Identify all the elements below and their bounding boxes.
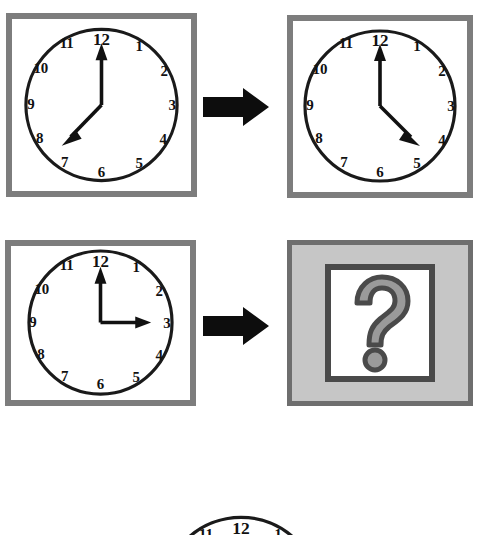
clock1-numeral-10: 10 [33, 60, 48, 76]
arrow-right-icon [203, 86, 269, 128]
clock2-numeral-11: 11 [339, 35, 353, 51]
clock3-numeral-9: 9 [29, 314, 36, 330]
clock2-numeral-4: 4 [438, 132, 446, 148]
clock2-numeral-1: 1 [413, 38, 421, 54]
clock1-numeral-5: 5 [136, 155, 143, 171]
clock2-numeral-5: 5 [413, 155, 421, 171]
clock1-numeral-9: 9 [27, 96, 34, 112]
clock1-numeral-1: 1 [136, 38, 143, 54]
clock3-numeral-11: 11 [60, 257, 74, 273]
clock1-numeral-6: 6 [98, 164, 106, 180]
clock2-numeral-7: 7 [340, 154, 348, 170]
clock-panel-3: 12 1 2 3 4 5 6 7 8 9 10 11 [5, 240, 196, 406]
clock3-numeral-2: 2 [155, 283, 162, 299]
clock1-numeral-4: 4 [159, 131, 167, 147]
clock3-numeral-5: 5 [133, 369, 140, 385]
clock1-numeral-2: 2 [160, 63, 167, 79]
clock1-numeral-7: 7 [61, 154, 69, 170]
clock3-numeral-7: 7 [61, 368, 69, 384]
clock-panel-1: 12 1 2 3 4 5 6 7 8 9 10 11 [6, 13, 197, 197]
arrow-right-icon [203, 305, 269, 347]
clock2-numeral-8: 8 [315, 130, 323, 146]
clock2-numeral-9: 9 [306, 97, 314, 113]
clock3-numeral-8: 8 [37, 346, 44, 362]
clock-face-2: 12 1 2 3 4 5 6 7 8 9 10 11 [293, 21, 467, 192]
clock1-numeral-8: 8 [36, 130, 43, 146]
question-mark-icon [345, 273, 415, 373]
clock3-numeral-3: 3 [163, 315, 170, 331]
answer-inner-box [325, 264, 435, 382]
clock3-numeral-10: 10 [34, 281, 49, 297]
clock3-numeral-4: 4 [155, 347, 163, 363]
clock-face-1: 12 1 2 3 4 5 6 7 8 9 10 11 [12, 19, 191, 191]
clock4-numeral-12: 12 [232, 518, 250, 535]
clock1-numeral-11: 11 [60, 35, 74, 51]
clock-panel-2: 12 1 2 3 4 5 6 7 8 9 10 11 [287, 15, 473, 198]
clock1-numeral-3: 3 [168, 97, 175, 113]
figure-canvas: 12 1 2 3 4 5 6 7 8 9 10 11 12 [0, 0, 482, 535]
answer-panel-unknown[interactable] [287, 240, 473, 406]
clock-face-3: 12 1 2 3 4 5 6 7 8 9 10 11 [11, 246, 190, 400]
clock4-numeral-1: 1 [274, 525, 282, 535]
clock3-numeral-1: 1 [133, 259, 140, 275]
arrow-row-1 [203, 86, 269, 128]
arrow-row-2 [203, 305, 269, 347]
clock-face-4-partial: 12 11 1 [148, 505, 334, 535]
clock2-numeral-6: 6 [376, 164, 384, 180]
clock2-numeral-10: 10 [313, 61, 328, 77]
clock4-numeral-11: 11 [199, 525, 214, 535]
clock3-numeral-6: 6 [97, 377, 105, 393]
clock-panel-4-partial: 12 11 1 [148, 505, 334, 535]
clock2-numeral-3: 3 [447, 98, 455, 114]
clock2-numeral-2: 2 [438, 63, 446, 79]
